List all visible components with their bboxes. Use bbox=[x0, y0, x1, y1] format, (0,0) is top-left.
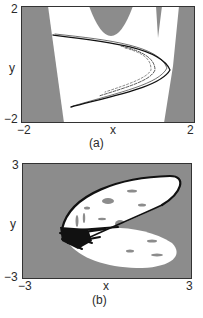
x-tick-max-a: 2 bbox=[187, 124, 194, 136]
x-label-a: x bbox=[110, 124, 116, 136]
y-tick-min-a: −2 bbox=[4, 113, 18, 125]
x-tick-max-b: 3 bbox=[186, 280, 193, 292]
panel-label-a: (a) bbox=[89, 137, 104, 149]
y-tick-max-a: 2 bbox=[11, 3, 18, 15]
x-tick-min-b: −3 bbox=[18, 280, 32, 292]
y-label-a: y bbox=[9, 62, 15, 74]
y-tick-max-b: 3 bbox=[12, 159, 19, 171]
panel-label-b: (b) bbox=[92, 294, 107, 306]
plot-area-b bbox=[22, 163, 192, 279]
panel-a: 2 −2 y −2 2 x (a) bbox=[0, 0, 203, 150]
y-tick-min-b: −3 bbox=[4, 271, 18, 283]
x-tick-min-a: −2 bbox=[17, 124, 31, 136]
panel-b: 3 −3 y −3 3 x (b) bbox=[0, 150, 203, 318]
y-label-b: y bbox=[10, 218, 16, 230]
x-label-b: x bbox=[103, 280, 109, 292]
plot-area-a bbox=[21, 6, 195, 123]
